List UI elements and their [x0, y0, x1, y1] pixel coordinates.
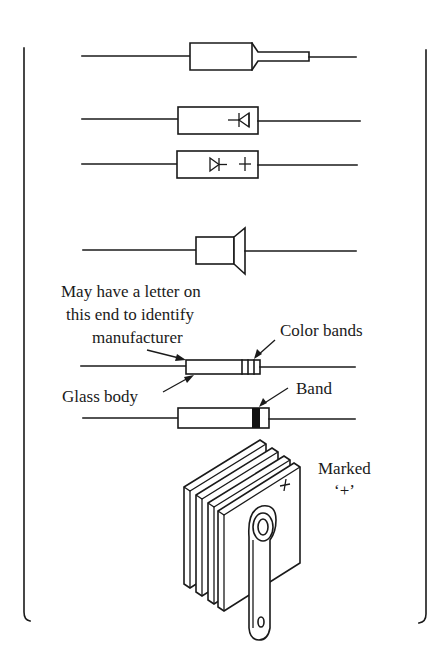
marked-plus-label: Marked ‘+’	[318, 459, 371, 500]
symbol-marked-diode-2	[82, 151, 357, 178]
banded-diode	[83, 408, 355, 428]
diode-identification-diagram: May have a letter on this end to identif…	[0, 0, 445, 647]
right-bracket	[419, 50, 426, 623]
letter-note-label: May have a letter on this end to identif…	[61, 282, 201, 347]
glass-body-arrow	[163, 375, 194, 392]
color-bands-arrow	[254, 340, 275, 359]
letter-note-arrow	[147, 350, 186, 361]
selenium-stack-rectifier	[184, 440, 300, 640]
color-bands-label: Color bands	[280, 321, 363, 340]
svg-text:Marked: Marked	[318, 459, 371, 478]
svg-text:‘+’: ‘+’	[334, 481, 355, 500]
flanged-body-diode	[83, 228, 356, 274]
band-label: Band	[296, 379, 332, 398]
svg-text:this end to identify: this end to identify	[66, 305, 194, 324]
symbol-marked-diode-1	[82, 107, 360, 134]
svg-text:May have a letter on: May have a letter on	[61, 282, 201, 301]
tapered-body-diode	[82, 43, 356, 70]
svg-text:manufacturer: manufacturer	[92, 328, 183, 347]
glass-body-label: Glass body	[62, 387, 139, 406]
glass-body-diode	[81, 360, 355, 374]
left-bracket	[24, 48, 30, 621]
cathode-band	[252, 408, 260, 428]
band-arrow	[259, 388, 288, 407]
